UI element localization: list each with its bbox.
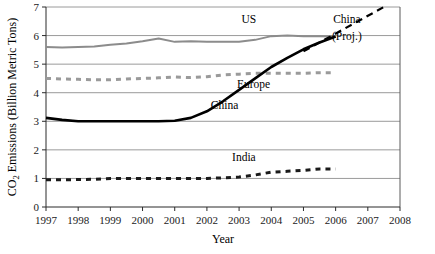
x-tick-label-1997: 1997 (35, 214, 58, 226)
y-tick-label-2: 2 (34, 144, 40, 156)
chart-canvas: 0123456719971998199920002001200220032004… (0, 0, 435, 254)
x-tick-label-2006: 2006 (325, 214, 348, 226)
series-label-us: US (241, 13, 256, 25)
series-label-india: India (232, 151, 256, 163)
series-line-europe (46, 73, 336, 80)
y-axis-title: CO2 Emissions (Billion Metric Tons) (5, 18, 21, 197)
x-tick-label-2003: 2003 (228, 214, 251, 226)
x-tick-label-2002: 2002 (196, 214, 218, 226)
series-label-china-proj-line2: (Proj.) (332, 30, 362, 43)
x-tick-label-2000: 2000 (132, 214, 155, 226)
x-tick-label-2004: 2004 (260, 214, 283, 226)
y-axis-title-suffix: Emissions (Billion Metric Tons) (5, 18, 19, 176)
x-tick-label-2008: 2008 (389, 214, 412, 226)
x-tick-label-2005: 2005 (292, 214, 315, 226)
x-tick-label-1998: 1998 (67, 214, 90, 226)
x-tick-label-2007: 2007 (357, 214, 380, 226)
series-line-us (46, 36, 336, 48)
series-label-china-proj-line1: China (333, 13, 360, 25)
series-label-europe: Europe (237, 78, 270, 91)
y-tick-label-5: 5 (34, 58, 40, 70)
y-tick-label-1: 1 (34, 172, 40, 184)
y-axis-title-prefix: CO (5, 179, 19, 196)
x-axis-title: Year (212, 232, 234, 246)
y-tick-label-0: 0 (34, 201, 40, 213)
x-tick-label-1999: 1999 (99, 214, 122, 226)
y-tick-label-7: 7 (34, 1, 40, 13)
co2-emissions-chart: 0123456719971998199920002001200220032004… (0, 0, 435, 254)
y-tick-label-4: 4 (34, 87, 40, 99)
series-label-china: China (211, 99, 238, 111)
x-tick-label-2001: 2001 (164, 214, 186, 226)
y-tick-label-6: 6 (34, 30, 40, 42)
y-tick-label-3: 3 (34, 115, 40, 127)
